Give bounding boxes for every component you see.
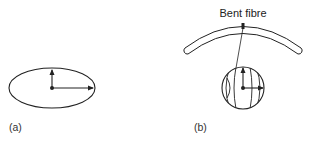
bent-fibre-title: Bent fibre <box>219 7 266 19</box>
panel-b: Bent fibre (b) <box>184 7 302 133</box>
bent-fibre <box>184 23 302 54</box>
panel-a-label: (a) <box>9 121 22 133</box>
panel-a: (a) <box>9 68 95 133</box>
magnified-section <box>222 67 264 109</box>
figure-canvas: (a) Bent fibre <box>0 0 313 145</box>
panel-b-label: (b) <box>194 121 207 133</box>
